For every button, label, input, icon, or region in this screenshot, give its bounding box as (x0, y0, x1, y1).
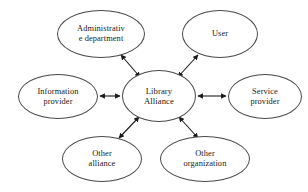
diagram-canvas: Administrativ e department User Informat… (0, 0, 308, 192)
node-administrative-department-label: Administrativ e department (73, 24, 129, 44)
node-administrative-department[interactable]: Administrativ e department (57, 10, 145, 58)
node-service-provider-label: Service provider (246, 87, 283, 107)
edge-center-user (178, 55, 198, 77)
node-user-label: User (208, 29, 232, 39)
node-other-organization[interactable]: Other organization (160, 136, 250, 182)
node-other-alliance-label: Other alliance (85, 149, 120, 169)
node-library-alliance-label: Library Alliance (140, 86, 178, 106)
edge-center-other-alliance (119, 117, 139, 138)
node-other-alliance[interactable]: Other alliance (62, 136, 142, 182)
node-other-organization-label: Other organization (180, 149, 231, 169)
node-library-alliance[interactable]: Library Alliance (122, 70, 196, 122)
node-service-provider[interactable]: Service provider (228, 74, 302, 119)
node-information-provider-label: Information provider (33, 87, 82, 107)
edge-center-other-organization (179, 117, 198, 138)
node-information-provider[interactable]: Information provider (18, 74, 98, 119)
node-user[interactable]: User (182, 10, 258, 58)
